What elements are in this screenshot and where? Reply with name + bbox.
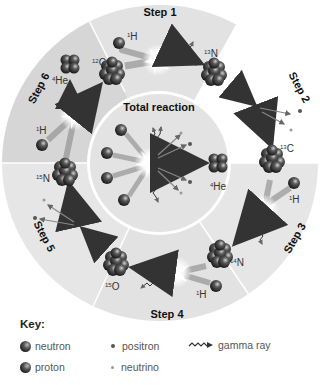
step-2-label: Step 2	[286, 70, 312, 105]
proton-icon	[113, 37, 125, 49]
step-2-group: 13C	[233, 86, 302, 173]
legend-item-proton: proton	[20, 361, 65, 373]
proton-icon	[210, 280, 222, 292]
neutrino-icon	[111, 366, 114, 369]
neutron-icon	[20, 341, 31, 352]
total-reaction-label: Total reaction	[123, 101, 195, 113]
step-4-label: Step 4	[150, 308, 184, 320]
proton-icon	[115, 124, 127, 136]
proton-icon	[36, 139, 48, 151]
legend-item-neutron: neutron	[20, 340, 71, 352]
step-1-label: Step 1	[143, 6, 176, 18]
positron-icon	[298, 109, 302, 113]
legend-item-positron: positron	[108, 340, 159, 352]
proton-icon	[288, 177, 300, 189]
legend-title: Key:	[20, 318, 45, 330]
gamma-ray-icon	[188, 340, 214, 350]
proton-icon	[118, 194, 130, 206]
positron-icon	[111, 344, 115, 348]
proton-icon	[20, 362, 31, 373]
svg-text:4He: 4He	[52, 75, 69, 86]
neutrino-icon	[290, 129, 293, 132]
legend-item-gamma-ray: gamma ray	[188, 339, 271, 351]
proton-icon	[101, 147, 113, 159]
positron-icon	[33, 216, 37, 220]
cno-cycle-diagram: Step 1 Step 2 Step 3 Step 4 Step 5 Step …	[0, 0, 323, 385]
neutrino-icon	[43, 199, 46, 202]
proton-icon	[101, 172, 113, 184]
legend-item-neutrino: neutrino	[108, 361, 159, 373]
svg-text:4He: 4He	[210, 181, 227, 192]
